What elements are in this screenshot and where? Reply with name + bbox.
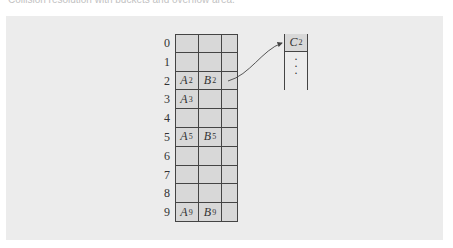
overflow-continuation-dots: ··· bbox=[284, 56, 308, 77]
overflow-pointer-arrow bbox=[0, 0, 453, 248]
overflow-right-border bbox=[307, 34, 308, 90]
overflow-area: C2 ··· bbox=[284, 34, 308, 90]
overflow-entry-base: C bbox=[289, 35, 297, 50]
overflow-left-border bbox=[284, 34, 285, 90]
overflow-entry: C2 bbox=[284, 34, 308, 52]
overflow-entry-sub: 2 bbox=[299, 38, 303, 47]
